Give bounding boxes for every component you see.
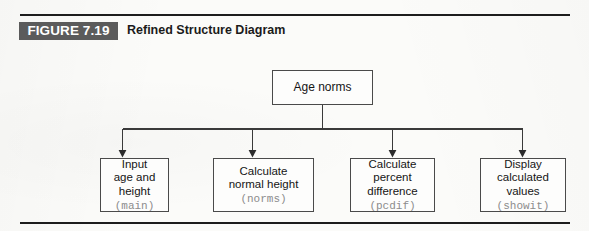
node-label: Input (122, 158, 148, 171)
node-display-calculated-values: Display calculated values (showit) (480, 158, 566, 212)
node-label: percent (373, 171, 411, 184)
arrowhead-showit-icon (519, 150, 527, 158)
figure-container: FIGURE 7.19 Refined Structure Diagram Ag… (0, 0, 589, 231)
node-module-name: (norms) (240, 192, 286, 206)
arrowhead-norms-icon (249, 150, 257, 158)
node-label: difference (367, 185, 417, 198)
node-age-norms: Age norms (272, 70, 373, 105)
node-label: Calculate (240, 165, 288, 178)
node-calculate-normal-height: Calculate normal height (norms) (213, 158, 314, 212)
arrowhead-pcdif-icon (389, 150, 397, 158)
node-label: Age norms (293, 81, 351, 94)
node-module-name: (pcdif) (369, 199, 415, 213)
node-label: age and (114, 171, 156, 184)
node-label: calculated (497, 171, 549, 184)
node-label: Calculate (369, 158, 417, 171)
node-input-age-and-height: Input age and height (main) (100, 158, 169, 212)
node-module-name: (main) (115, 199, 155, 213)
arrowhead-input-icon (119, 150, 127, 158)
node-module-name: (showit) (497, 199, 550, 213)
node-label: height (119, 185, 150, 198)
node-label: Display (504, 158, 542, 171)
node-label: normal height (229, 178, 299, 191)
node-calculate-percent-difference: Calculate percent difference (pcdif) (350, 158, 435, 212)
node-label: values (506, 185, 539, 198)
